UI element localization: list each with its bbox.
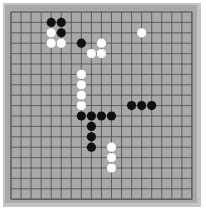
white-stone xyxy=(77,91,86,100)
black-stone xyxy=(137,101,146,110)
white-stone xyxy=(47,39,56,48)
white-stone xyxy=(87,49,96,58)
white-stone xyxy=(47,28,56,37)
white-stone xyxy=(97,49,106,58)
black-stone xyxy=(147,101,156,110)
black-stone xyxy=(87,122,96,131)
white-stone xyxy=(107,163,116,172)
black-stone xyxy=(77,111,86,120)
black-stone xyxy=(77,39,86,48)
black-stone xyxy=(87,143,96,152)
board-grid[interactable] xyxy=(0,0,206,213)
white-stone xyxy=(77,70,86,79)
black-stone xyxy=(127,101,136,110)
black-stone xyxy=(57,18,66,27)
white-stone xyxy=(107,153,116,162)
white-stone xyxy=(57,39,66,48)
white-stone xyxy=(107,143,116,152)
black-stone xyxy=(87,111,96,120)
black-stone xyxy=(97,111,106,120)
black-stone xyxy=(107,111,116,120)
white-stone xyxy=(77,101,86,110)
black-stone xyxy=(47,18,56,27)
black-stone xyxy=(87,132,96,141)
white-stone xyxy=(97,39,106,48)
white-stone xyxy=(77,80,86,89)
black-stone xyxy=(57,28,66,37)
white-stone xyxy=(137,28,146,37)
